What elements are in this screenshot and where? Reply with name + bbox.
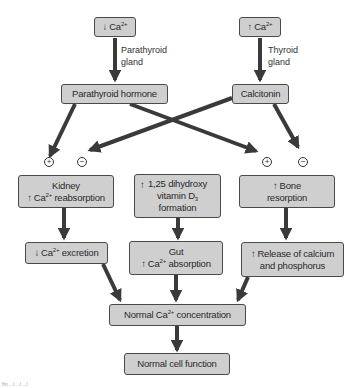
parathyroid-hormone-node: Parathyroid hormone — [61, 84, 168, 104]
vitamin-d-formation-node: ↑ 1,25 dihydroxy vitamin D3 formation — [134, 174, 221, 218]
bone-stimulate-sign: + — [262, 157, 272, 167]
arrow-pth-to-kidney-plus — [50, 104, 75, 156]
release-calcium-phosphorus-node: Release of calcium and phosphorus — [241, 242, 344, 277]
bone-resorption-node: Bone resorption — [239, 175, 335, 208]
decrease-arrow-icon: Ca2+ — [103, 21, 128, 33]
decrease-arrow-icon: Ca2+ excretion — [35, 247, 99, 259]
increase-arrow-icon: Ca2+ absorption — [141, 258, 211, 270]
normal-cell-function-node: Normal cell function — [124, 353, 230, 375]
parathyroid-gland-label: Parathyroid gland — [121, 44, 167, 68]
arrow-calcitonin-to-kidney-minus — [90, 98, 232, 150]
increase-arrow-icon: Ca2+ — [248, 21, 273, 33]
increase-arrow-icon: ↑ — [140, 179, 145, 191]
calcitonin-node: Calcitonin — [232, 84, 289, 104]
normal-calcium-concentration-node: Normal Ca2+ concentration — [109, 304, 246, 326]
bone-inhibit-sign: − — [298, 157, 308, 167]
increase-arrow-icon: Release of calcium — [251, 248, 334, 260]
thyroid-gland-label: Thyroid gland — [268, 44, 298, 68]
high-calcium-node: Ca2+ — [239, 17, 281, 37]
low-calcium-node: Ca2+ — [94, 17, 136, 37]
increase-arrow-icon: Bone — [273, 180, 301, 192]
increase-arrow-icon: Ca2+ reabsorption — [27, 192, 105, 204]
kidney-stimulate-sign: + — [44, 157, 54, 167]
arrow-calcitonin-to-bone-minus — [274, 104, 298, 147]
figure-caption: fm ...l ...l ...l — [2, 381, 28, 387]
arrow-excretion-to-normalca — [103, 264, 120, 300]
gut-absorption-node: Gut Ca2+ absorption — [129, 241, 223, 275]
arrow-release-to-normalca — [238, 277, 248, 300]
kidney-inhibit-sign: − — [77, 157, 87, 167]
calcium-excretion-node: Ca2+ excretion — [25, 242, 108, 264]
kidney-reabsorption-node: Kidney Ca2+ reabsorption — [18, 175, 114, 208]
